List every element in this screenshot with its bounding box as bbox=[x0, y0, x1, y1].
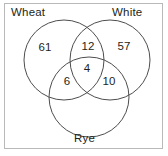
region-value-wheat-rye: 6 bbox=[64, 75, 70, 87]
circle-wheat bbox=[24, 20, 104, 100]
set-label-white: White bbox=[112, 6, 142, 18]
set-label-wheat: Wheat bbox=[11, 6, 45, 18]
circle-white bbox=[70, 20, 150, 100]
venn-diagram-figure: Wheat White Rye 61 12 57 4 6 10 bbox=[0, 0, 168, 156]
region-value-all-three: 4 bbox=[84, 62, 90, 74]
region-value-white-rye: 10 bbox=[103, 75, 116, 87]
set-label-rye: Rye bbox=[74, 132, 95, 144]
region-value-white-only: 57 bbox=[118, 40, 131, 52]
region-value-wheat-white: 12 bbox=[82, 40, 95, 52]
region-value-wheat-only: 61 bbox=[39, 41, 52, 53]
